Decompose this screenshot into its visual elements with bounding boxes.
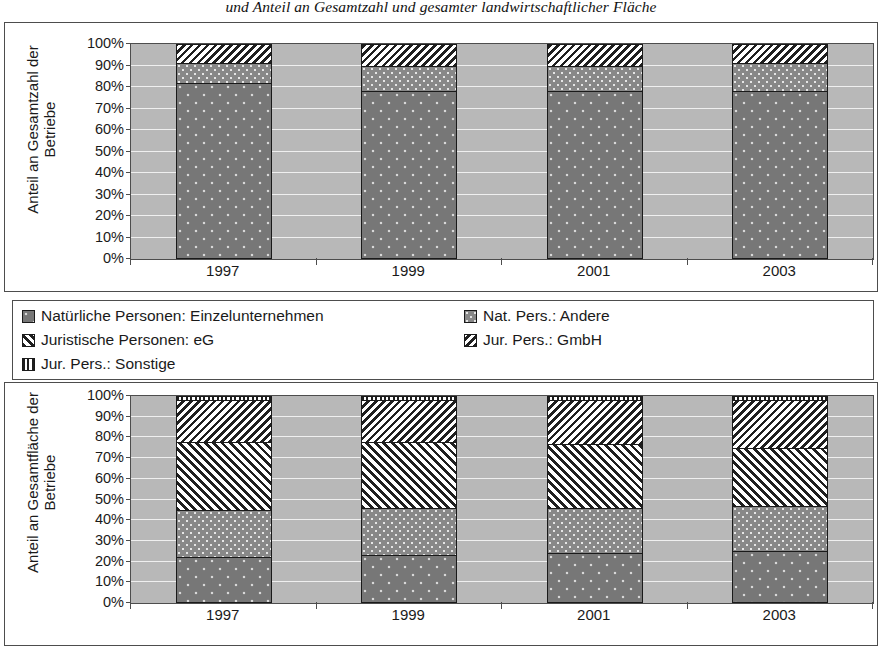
bar-segment-2003-1 xyxy=(732,506,828,552)
top-x-tick-mark xyxy=(316,258,317,265)
bottom-y-tick-label: 30% xyxy=(78,532,124,548)
top-x-tick-label: 2003 xyxy=(687,262,873,279)
bar-segment-1999-4 xyxy=(361,396,457,400)
bottom-plot-area xyxy=(130,395,874,604)
bar-segment-1997-0 xyxy=(176,83,272,259)
legend-swatch-andere-icon xyxy=(464,310,477,323)
top-x-tick-mark xyxy=(501,258,502,265)
bar-segment-2001-0 xyxy=(547,553,643,603)
bar-1997 xyxy=(176,44,272,259)
bar-segment-2001-1 xyxy=(547,66,643,92)
bottom-x-tick-label: 1997 xyxy=(130,606,316,623)
bottom-y-tick-label: 0% xyxy=(78,594,124,610)
bar-2003 xyxy=(732,396,828,603)
bar-segment-1999-0 xyxy=(361,91,457,259)
bar-segment-1997-1 xyxy=(176,510,272,558)
bar-segment-2001-0 xyxy=(547,91,643,259)
legend-item-andere[interactable]: Nat. Pers.: Andere xyxy=(464,307,610,325)
bar-segment-1999-1 xyxy=(361,508,457,556)
bar-segment-2003-3 xyxy=(732,44,828,63)
legend-swatch-einzel-icon xyxy=(22,310,35,323)
bottom-x-tick-label: 2003 xyxy=(687,606,873,623)
top-y-axis-title-line: Anteil an Gesamtzahl der xyxy=(24,4,41,255)
top-x-tick-label: 1997 xyxy=(130,262,316,279)
bottom-y-axis-title-line: Anteil an Gesamtfläche der xyxy=(24,361,41,604)
chart-page: und Anteil an Gesamtzahl und gesamter la… xyxy=(0,0,882,646)
legend-item-gmbh[interactable]: Jur. Pers.: GmbH xyxy=(464,331,602,349)
bottom-x-tick-mark xyxy=(501,602,502,609)
bar-1999 xyxy=(361,396,457,603)
top-x-tick-mark xyxy=(872,258,873,265)
bottom-y-axis-title: Anteil an Gesamtfläche derBetriebe xyxy=(24,361,58,604)
top-x-tick-label: 1999 xyxy=(316,262,502,279)
bottom-y-tick-label: 50% xyxy=(78,491,124,507)
top-y-axis-title: Anteil an Gesamtzahl derBetriebe xyxy=(24,4,58,255)
top-x-tick-mark xyxy=(130,258,131,265)
legend-label-andere: Nat. Pers.: Andere xyxy=(483,307,610,325)
bar-segment-2001-2 xyxy=(547,444,643,508)
bar-segment-1997-3 xyxy=(176,400,272,441)
bottom-x-tick-label: 1999 xyxy=(316,606,502,623)
bottom-y-axis-title-line: Betriebe xyxy=(41,361,58,604)
bar-segment-1997-3 xyxy=(176,44,272,63)
bottom-y-tick-label: 60% xyxy=(78,470,124,486)
bar-segment-1997-2 xyxy=(176,442,272,510)
legend-swatch-eg-icon xyxy=(22,334,35,347)
bottom-x-tick-mark xyxy=(872,602,873,609)
bar-segment-2003-0 xyxy=(732,91,828,259)
bottom-x-tick-mark xyxy=(316,602,317,609)
bar-segment-1999-2 xyxy=(361,442,457,508)
bar-1999 xyxy=(361,44,457,259)
page-title: und Anteil an Gesamtzahl und gesamter la… xyxy=(0,0,882,16)
bar-segment-1999-3 xyxy=(361,44,457,66)
bar-segment-2003-3 xyxy=(732,400,828,448)
legend-item-einzel[interactable]: Natürliche Personen: Einzelunternehmen xyxy=(22,307,324,325)
legend-swatch-gmbh-icon xyxy=(464,334,477,347)
bar-segment-1999-0 xyxy=(361,555,457,603)
bottom-y-tick-label: 80% xyxy=(78,428,124,444)
bar-segment-2001-3 xyxy=(547,400,643,443)
bar-2003 xyxy=(732,44,828,259)
legend-label-eg: Juristische Personen: eG xyxy=(41,331,214,349)
bottom-x-tick-label: 2001 xyxy=(501,606,687,623)
bar-segment-2001-1 xyxy=(547,508,643,554)
bottom-y-tick-label: 100% xyxy=(78,387,124,403)
bottom-y-axis: 100%90%80%70%60%50%40%30%20%10%0% xyxy=(78,0,124,646)
bar-segment-1997-4 xyxy=(176,396,272,400)
top-x-tick-mark xyxy=(687,258,688,265)
bottom-x-tick-mark xyxy=(130,602,131,609)
bar-segment-2003-1 xyxy=(732,63,828,91)
bar-segment-2003-4 xyxy=(732,396,828,400)
bar-segment-2003-2 xyxy=(732,448,828,506)
bottom-y-tick-label: 90% xyxy=(78,408,124,424)
bar-segment-2001-3 xyxy=(547,44,643,66)
legend-label-gmbh: Jur. Pers.: GmbH xyxy=(483,331,602,349)
bar-segment-2003-0 xyxy=(732,551,828,603)
top-x-tick-label: 2001 xyxy=(501,262,687,279)
bar-segment-2001-4 xyxy=(547,396,643,400)
bottom-x-tick-mark xyxy=(687,602,688,609)
bar-segment-1999-1 xyxy=(361,66,457,92)
bar-segment-1997-1 xyxy=(176,63,272,82)
bar-segment-1997-0 xyxy=(176,557,272,603)
bottom-y-tick-label: 40% xyxy=(78,511,124,527)
bar-2001 xyxy=(547,396,643,603)
bar-1997 xyxy=(176,396,272,603)
bar-2001 xyxy=(547,44,643,259)
bottom-y-tick-label: 10% xyxy=(78,573,124,589)
bottom-y-tick-label: 70% xyxy=(78,449,124,465)
top-y-axis-title-line: Betriebe xyxy=(41,4,58,255)
top-plot-area xyxy=(130,43,874,260)
bottom-y-tick-label: 20% xyxy=(78,553,124,569)
bar-segment-1999-3 xyxy=(361,400,457,441)
